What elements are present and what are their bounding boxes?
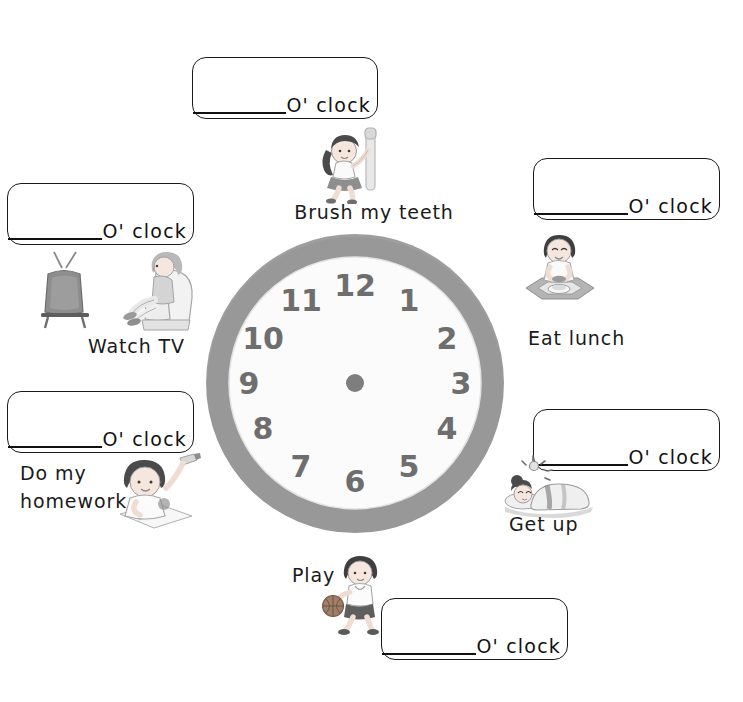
answer-box-eat-lunch[interactable]: O' clock [533,158,720,220]
answer-row: O' clock [382,637,567,658]
oclock-label-watch-tv: O' clock [102,222,187,243]
answer-box-play[interactable]: O' clock [381,598,568,660]
clock-numeral-10: 10 [242,321,284,356]
blank-write-line[interactable] [382,653,476,655]
oclock-label-brush-my-teeth: O' clock [286,96,371,117]
clock-numeral-2: 2 [437,321,458,356]
girl-with-toothbrush-icon [310,126,390,204]
oclock-label-do-my-homework: O' clock [102,430,187,451]
analog-clock: 12 1 2 3 4 5 6 7 8 9 10 11 [204,232,506,534]
clock-numeral-4: 4 [437,411,458,446]
blank-write-line[interactable] [193,112,286,114]
caption-get-up: Get up [509,511,669,539]
answer-row: O' clock [534,197,719,218]
clock-numeral-7: 7 [291,449,312,484]
blank-write-line[interactable] [8,238,102,240]
clock-numeral-6: 6 [345,464,366,499]
clock-numeral-8: 8 [253,411,274,446]
clock-numeral-11: 11 [280,283,322,318]
oclock-label-get-up: O' clock [628,448,713,469]
tv-and-person-in-armchair-icon [26,250,208,336]
answer-box-watch-tv[interactable]: O' clock [7,183,194,245]
caption-brush-my-teeth: Brush my teeth [284,199,464,227]
clock-numeral-1: 1 [399,283,420,318]
caption-play: Play [292,562,372,590]
answer-box-do-my-homework[interactable]: O' clock [7,391,194,453]
oclock-label-play: O' clock [476,637,561,658]
caption-eat-lunch: Eat lunch [528,325,708,353]
answer-row: O' clock [193,96,377,117]
blank-write-line[interactable] [8,446,102,448]
oclock-label-eat-lunch: O' clock [628,197,713,218]
child-eating-at-table-icon [518,232,600,308]
clock-numeral-3: 3 [451,366,472,401]
clock-center-dot [346,374,364,392]
answer-row: O' clock [8,222,193,243]
blank-write-line[interactable] [534,213,628,215]
clock-numeral-5: 5 [399,449,420,484]
answer-row: O' clock [8,430,193,451]
caption-do-my-homework: Do my homework [20,460,180,515]
clock-numeral-9: 9 [239,366,260,401]
answer-box-brush-my-teeth[interactable]: O' clock [192,57,378,119]
clock-numeral-12: 12 [334,268,376,303]
